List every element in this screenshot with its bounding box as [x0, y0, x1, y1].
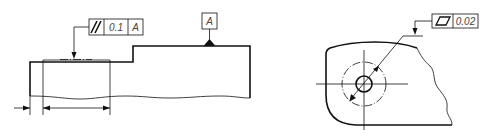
stepped-part-outline: [30, 46, 250, 98]
parallelism-icon: [91, 21, 101, 33]
feature-control-frame-flatness: 0.02: [432, 14, 478, 28]
right-figure: 0.02: [316, 14, 478, 130]
flatness-icon: [436, 17, 450, 25]
datum-feature-symbol: A: [202, 13, 217, 46]
engineering-drawing: 0.1 A A: [0, 0, 487, 138]
feature-control-frame-parallelism: 0.1 A: [89, 19, 143, 35]
break-line: [417, 48, 452, 125]
datum-reference: A: [131, 22, 139, 33]
datum-label: A: [205, 16, 213, 27]
plate-outline: [326, 42, 452, 125]
left-figure: 0.1 A A: [14, 13, 250, 115]
arrowhead-icon: [413, 28, 418, 35]
datum-triangle-icon: [204, 39, 216, 46]
arrowhead-icon: [72, 52, 77, 59]
arrowhead-icon: [43, 106, 50, 111]
fcf-leader: [74, 27, 89, 54]
tolerance-value: 0.1: [109, 22, 123, 33]
arrowhead-icon: [350, 94, 357, 102]
break-line: [30, 96, 250, 99]
tolerance-value: 0.02: [456, 16, 476, 27]
fcf-leader: [415, 21, 432, 30]
tolerance-zone-extension-lines: [43, 60, 110, 115]
arrowhead-icon: [103, 106, 110, 111]
arrowhead-icon: [23, 106, 30, 111]
